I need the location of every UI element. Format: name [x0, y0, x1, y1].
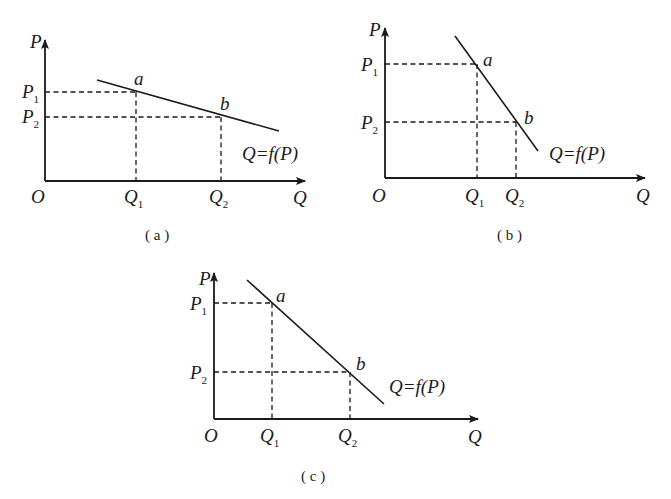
q2-label: Q2 — [505, 185, 524, 209]
q2-label: Q2 — [209, 186, 228, 210]
q1-label: Q1 — [124, 186, 143, 210]
y-axis-label: P — [198, 268, 211, 289]
diagram-a: P Q O P1 P2 Q1 Q2 a b Q=f(P) ( a ) — [21, 31, 307, 244]
p1-label: P1 — [21, 81, 39, 105]
p2-label: P2 — [21, 106, 39, 130]
demand-curve — [455, 36, 538, 151]
point-a-label: a — [134, 68, 144, 89]
point-b-label: b — [524, 107, 534, 128]
y-axis-label: P — [368, 19, 381, 40]
p1-label: P1 — [189, 293, 207, 317]
q1-label: Q1 — [260, 425, 279, 449]
origin-label: O — [31, 186, 45, 207]
point-a-label: a — [276, 285, 286, 306]
curve-label: Q=f(P) — [389, 376, 445, 398]
x-axis-label: Q — [468, 426, 482, 447]
point-b-label: b — [220, 93, 230, 114]
curve-label: Q=f(P) — [549, 143, 605, 165]
curve-label: Q=f(P) — [242, 143, 298, 165]
q2-label: Q2 — [338, 425, 357, 449]
q1-label: Q1 — [465, 185, 484, 209]
demand-curve — [247, 280, 384, 404]
origin-label: O — [204, 425, 218, 446]
x-axis-label: Q — [293, 187, 307, 208]
origin-label: O — [372, 185, 386, 206]
p1-label: P1 — [360, 54, 378, 78]
demand-curves-figure: P Q O P1 P2 Q1 Q2 a b Q=f(P) ( a ) P Q O… — [0, 0, 671, 499]
p2-label: P2 — [360, 112, 378, 136]
p2-label: P2 — [189, 362, 207, 386]
caption-b: ( b ) — [497, 227, 522, 244]
caption-a: ( a ) — [145, 227, 169, 244]
point-a-label: a — [483, 49, 493, 70]
y-axis-label: P — [29, 31, 42, 52]
diagram-c: P Q O P1 P2 Q1 Q2 a b Q=f(P) ( c ) — [189, 268, 482, 485]
demand-curve — [97, 80, 279, 131]
point-b-label: b — [356, 353, 366, 374]
caption-c: ( c ) — [301, 468, 325, 485]
diagram-b: P Q O P1 P2 Q1 Q2 a b Q=f(P) ( b ) — [360, 19, 650, 244]
x-axis-label: Q — [636, 185, 650, 206]
